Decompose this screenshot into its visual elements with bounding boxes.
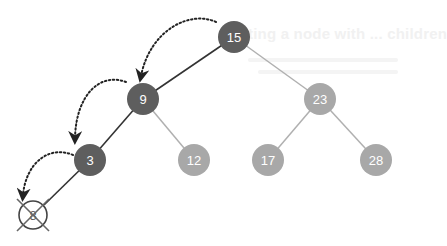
- arrow-15-to-9: [141, 19, 216, 76]
- node-17: 17: [252, 144, 284, 176]
- edge-15-9: [143, 37, 234, 99]
- deleted-node-8: 8: [17, 199, 49, 231]
- node-12: 12: [178, 144, 210, 176]
- node-label: 15: [227, 30, 241, 45]
- arrow-9-to-3: [75, 80, 126, 138]
- node-label: 28: [369, 153, 383, 168]
- node-3: 3: [74, 144, 106, 176]
- node-9: 9: [127, 83, 159, 115]
- node-15: 15: [218, 21, 250, 53]
- node-23: 23: [304, 83, 336, 115]
- node-label: 3: [86, 153, 93, 168]
- node-label: 12: [187, 153, 201, 168]
- node-label: 23: [313, 92, 327, 107]
- arrow-3-to-8: [23, 152, 73, 195]
- node-28: 28: [360, 144, 392, 176]
- node-label: 17: [261, 153, 275, 168]
- node-label: 9: [139, 92, 146, 107]
- tree-edges: [44, 37, 376, 205]
